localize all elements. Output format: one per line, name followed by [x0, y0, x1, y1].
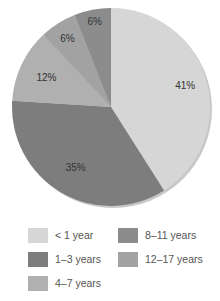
- legend-item-lt-1-year: < 1 year: [28, 225, 93, 245]
- legend-swatch: [118, 228, 138, 243]
- legend-label: 8–11 years: [145, 229, 196, 241]
- legend-item-4-7-years: 4–7 years: [28, 273, 101, 293]
- pie-chart: 41%35%12%6%6%: [0, 0, 220, 220]
- legend-swatch: [28, 228, 48, 243]
- legend-swatch: [118, 252, 138, 267]
- slice-percent-label: 6%: [87, 16, 102, 27]
- legend-label: 12–17 years: [145, 253, 203, 265]
- legend-swatch: [28, 252, 48, 267]
- slice-percent-label: 41%: [175, 80, 195, 91]
- legend-swatch: [28, 276, 48, 291]
- legend-label: 1–3 years: [55, 253, 101, 265]
- legend-item-12-17-years: 12–17 years: [118, 249, 203, 269]
- legend-item-1-3-years: 1–3 years: [28, 249, 101, 269]
- pie-slices: [12, 8, 212, 208]
- slice-percent-label: 6%: [60, 33, 75, 44]
- slice-percent-label: 12%: [36, 72, 56, 83]
- legend-item-8-11-years: 8–11 years: [118, 225, 196, 245]
- legend-label: < 1 year: [55, 229, 93, 241]
- slice-percent-label: 35%: [66, 162, 86, 173]
- legend: < 1 year 8–11 years 1–3 years 12–17 year…: [28, 225, 218, 299]
- legend-label: 4–7 years: [55, 277, 101, 289]
